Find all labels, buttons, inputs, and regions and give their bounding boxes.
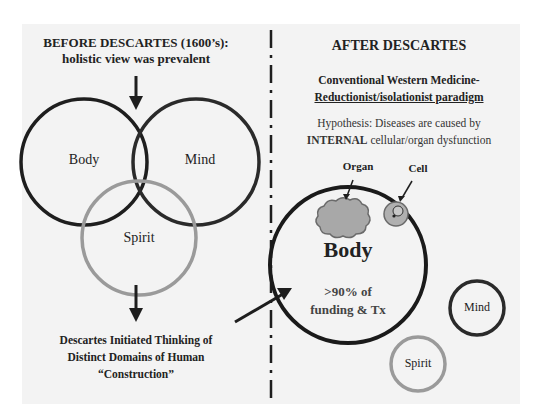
venn-mind-label: Mind: [170, 152, 230, 168]
hypothesis-line1: Hypothesis: Diseases are caused by: [283, 117, 515, 129]
hypothesis-rest: cellular/organ dysfunction: [368, 134, 492, 146]
left-title: BEFORE DESCARTES (1600’s):: [22, 35, 250, 51]
right-subtitle-line2: Reductionist/isolationist paradigm: [283, 91, 515, 103]
hypothesis-line2: INTERNAL cellular/organ dysfunction: [283, 134, 515, 146]
cell-label: Cell: [398, 162, 438, 174]
diagonal-arrow-icon: [235, 288, 292, 322]
left-caption-line2: Distinct Domains of Human: [22, 351, 250, 363]
body-sub-line2: funding & Tx: [290, 302, 406, 318]
mind-label: Mind: [452, 300, 502, 315]
cell-pointer: [402, 181, 412, 198]
venn-body-label: Body: [54, 152, 114, 168]
venn-spirit-label: Spirit: [109, 230, 169, 246]
organ-icon: [316, 198, 370, 238]
right-subtitle-line1: Conventional Western Medicine-: [283, 74, 515, 86]
cell-icon: [384, 202, 408, 226]
down-arrow-icon-2: [129, 285, 143, 322]
body-label: Body: [298, 237, 398, 263]
left-caption-line1: Descartes Initiated Thinking of: [22, 334, 250, 346]
down-arrow-icon: [129, 76, 143, 110]
body-sub-line1: >90% of: [298, 284, 398, 300]
left-subtitle: holistic view was prevalent: [22, 51, 250, 67]
hypothesis-internal: INTERNAL: [307, 134, 368, 146]
right-title: AFTER DESCARTES: [283, 38, 515, 54]
organ-label: Organ: [333, 160, 383, 172]
left-caption-line3: “Construction”: [22, 368, 250, 380]
spirit-label: Spirit: [393, 356, 443, 371]
